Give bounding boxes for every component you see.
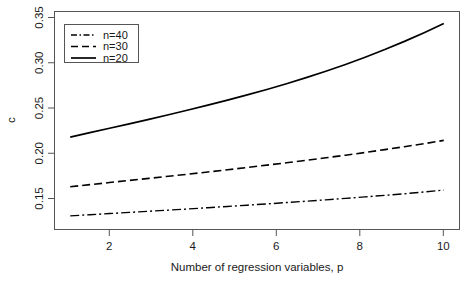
y-tick-label: 0.25 — [33, 97, 45, 119]
x-tick-label: 8 — [357, 240, 363, 252]
y-tick-label: 0.20 — [33, 142, 45, 164]
x-tick-label: 4 — [190, 240, 197, 252]
series-line-n30 — [70, 140, 444, 186]
y-tick-labels: 0.35 0.30 0.25 0.20 0.15 — [33, 6, 45, 209]
y-tick-label: 0.15 — [33, 187, 45, 209]
legend-label-n40: n=40 — [103, 29, 128, 41]
legend-label-n20: n=20 — [103, 52, 128, 64]
y-tick-label: 0.30 — [33, 52, 45, 74]
chart-figure: 0.35 0.30 0.25 0.20 0.15 c 2 4 6 8 10 Nu… — [0, 0, 473, 285]
x-tick-label: 2 — [106, 240, 112, 252]
series-line-n40 — [70, 190, 444, 216]
y-axis-ticks — [48, 18, 55, 199]
x-tick-label: 10 — [437, 240, 450, 252]
legend-label-n30: n=30 — [103, 40, 128, 52]
x-axis-ticks — [109, 230, 443, 237]
x-tick-label: 6 — [273, 240, 279, 252]
plot-svg: 0.35 0.30 0.25 0.20 0.15 c 2 4 6 8 10 Nu… — [0, 0, 473, 285]
legend: n=40 n=30 n=20 — [65, 25, 139, 64]
y-tick-label: 0.35 — [33, 6, 45, 28]
x-tick-labels: 2 4 6 8 10 — [106, 240, 450, 252]
y-axis-title: c — [5, 117, 17, 123]
x-axis-title: Number of regression variables, p — [171, 261, 344, 273]
